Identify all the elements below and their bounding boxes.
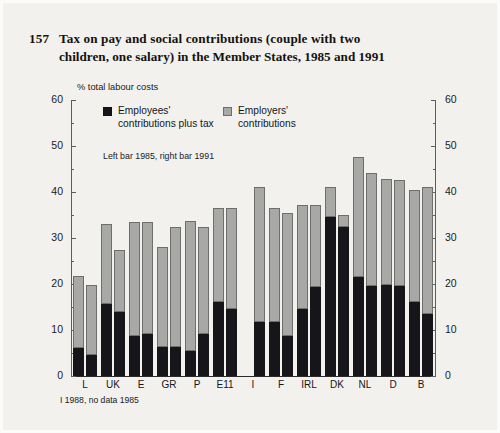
axis-tick	[71, 376, 76, 377]
axis-tick	[433, 353, 436, 354]
bar-1985-IRL	[297, 205, 308, 376]
axis-tick	[433, 169, 436, 170]
bar-1985-D	[381, 179, 392, 376]
y-axis-tick-label: 50	[445, 139, 467, 151]
bar-segment-employers	[282, 213, 293, 336]
bar-1985-L	[73, 276, 84, 376]
axis-tick	[431, 146, 436, 147]
bar-segment-employers	[310, 205, 321, 287]
x-axis-label-NL: NL	[351, 379, 379, 390]
bar-segment-employees	[86, 355, 97, 376]
y-axis-tick-label: 20	[445, 277, 467, 289]
bar-segment-employers	[269, 208, 280, 322]
bar-segment-employers	[409, 190, 420, 303]
legend-label-employers-line1: Employers'	[238, 105, 288, 116]
y-axis-tick-label: 50	[41, 139, 63, 151]
y-axis-tick-label: 60	[41, 93, 63, 105]
chart-plot: % total labour costs Employees' contribu…	[3, 3, 500, 433]
legend-label-employees-line2: contributions plus tax	[118, 118, 214, 129]
bar-1991-E11	[226, 208, 237, 376]
bar-segment-employers	[338, 215, 349, 227]
legend-swatch-employers-icon	[223, 107, 232, 116]
bar-1985-NL	[353, 157, 364, 376]
y-axis-tick-label: 0	[445, 369, 467, 381]
bar-segment-employers	[129, 222, 140, 335]
legend-note: Left bar 1985, right bar 1991	[103, 151, 214, 161]
x-axis-label-E11: E11	[211, 379, 239, 390]
axis-tick	[431, 100, 436, 101]
bar-segment-employers	[142, 222, 153, 333]
bar-segment-employees	[129, 336, 140, 376]
y-axis-tick-label: 60	[445, 93, 467, 105]
bar-segment-employees	[226, 309, 237, 376]
y-axis-tick-label: 40	[445, 185, 467, 197]
bar-segment-employees	[353, 277, 364, 376]
bar-segment-employers	[422, 187, 433, 314]
x-axis-label-D: D	[379, 379, 407, 390]
bar-segment-employers	[254, 187, 265, 321]
legend-swatch-employees-icon	[103, 107, 112, 116]
bar-1985-E11	[213, 208, 224, 376]
y-axis-tick-label: 10	[41, 323, 63, 335]
axis-tick	[71, 146, 76, 147]
bar-segment-employers	[86, 285, 97, 355]
x-axis-label-B: B	[407, 379, 435, 390]
axis-tick	[71, 215, 74, 216]
x-axis-line	[71, 376, 436, 377]
bar-segment-employees	[142, 334, 153, 376]
bar-segment-employers	[325, 187, 336, 216]
bar-1985-F	[269, 208, 280, 376]
bar-segment-employers	[73, 276, 84, 349]
legend-label-employees-line1: Employees'	[118, 105, 170, 116]
bar-1991-L	[86, 285, 97, 376]
bar-segment-employees	[213, 302, 224, 376]
axis-tick	[431, 376, 436, 377]
bar-segment-employers	[185, 221, 196, 351]
bar-1985-UK	[101, 224, 112, 376]
y-axis-tick-label: 0	[41, 369, 63, 381]
bar-segment-employees	[198, 334, 209, 376]
bar-segment-employees	[338, 227, 349, 377]
axis-tick	[71, 169, 74, 170]
bar-segment-employers	[170, 227, 181, 348]
bar-segment-employees	[269, 322, 280, 376]
bar-segment-employees	[114, 312, 125, 376]
bar-1985-DK	[325, 187, 336, 376]
x-axis-label-DK: DK	[323, 379, 351, 390]
y-axis-tick-label: 30	[41, 231, 63, 243]
figure-page: 157Tax on pay and social contributions (…	[0, 0, 500, 433]
x-axis-label-IRL: IRL	[295, 379, 323, 390]
bar-segment-employees	[310, 287, 321, 376]
bar-segment-employees	[101, 304, 112, 376]
bar-1991-IRL	[310, 205, 321, 376]
bar-1991-UK	[114, 250, 125, 377]
bar-segment-employers	[381, 179, 392, 285]
bar-segment-employees	[282, 336, 293, 376]
bar-segment-employees	[325, 217, 336, 376]
axis-tick	[71, 238, 76, 239]
bar-segment-employees	[157, 347, 168, 376]
bar-segment-employees	[73, 348, 84, 376]
x-axis-label-GR: GR	[155, 379, 183, 390]
bar-1991-I	[254, 187, 265, 376]
bar-segment-employers	[226, 208, 237, 309]
axis-tick	[71, 192, 76, 193]
x-axis-label-F: F	[267, 379, 295, 390]
bar-segment-employees	[297, 309, 308, 376]
x-axis-label-I: I	[239, 379, 267, 390]
x-axis-label-P: P	[183, 379, 211, 390]
bar-segment-employers	[297, 205, 308, 309]
bar-segment-employees	[366, 286, 377, 376]
bar-segment-employers	[114, 250, 125, 313]
y-axis-tick-label: 40	[41, 185, 63, 197]
bar-segment-employers	[366, 173, 377, 286]
bar-1985-GR	[157, 247, 168, 376]
axis-tick	[71, 123, 74, 124]
axis-tick	[71, 261, 74, 262]
x-axis-label-E: E	[127, 379, 155, 390]
bar-segment-employers	[394, 180, 405, 286]
axis-tick	[433, 261, 436, 262]
bar-segment-employees	[254, 322, 265, 376]
axis-tick	[71, 100, 76, 101]
bar-1985-P	[185, 221, 196, 376]
